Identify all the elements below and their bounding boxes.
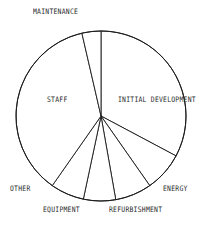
- slice-label-refurbishment: REFURBISHMENT: [109, 206, 162, 214]
- slice-label-initial-development: INITIAL DEVELOPMENT: [118, 96, 196, 104]
- pie-slice-group: [16, 31, 186, 201]
- slice-label-staff: STAFF: [47, 96, 68, 104]
- pie-chart-figure: INITIAL DEVELOPMENTENERGYREFURBISHMENTEQ…: [0, 0, 202, 231]
- slice-label-energy: ENERGY: [163, 185, 188, 193]
- pie-chart-svg: [0, 0, 202, 231]
- slice-label-equipment: EQUIPMENT: [43, 206, 80, 214]
- slice-label-maintenance: MAINTENANCE: [33, 8, 78, 16]
- slice-label-other: OTHER: [10, 185, 31, 193]
